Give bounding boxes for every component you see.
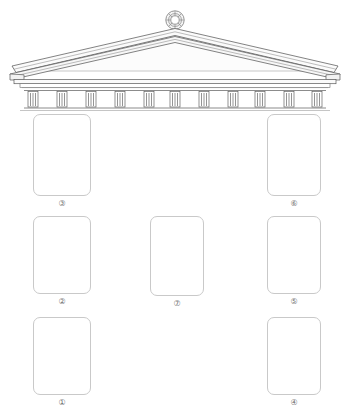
placeholder-card[interactable] (267, 317, 321, 395)
column (86, 92, 96, 108)
diagram-canvas: ③⑥②⑦⑤①④ (0, 0, 345, 413)
column (115, 92, 125, 108)
cornice-band (14, 80, 336, 84)
column (255, 92, 265, 108)
architrave-band (20, 84, 330, 88)
column (57, 92, 67, 108)
card-number-label: ① (42, 398, 82, 408)
card-number-label: ⑦ (157, 299, 197, 309)
card-number-label: ⑥ (274, 199, 314, 209)
placeholder-card[interactable] (150, 216, 204, 296)
column (284, 92, 294, 108)
column (144, 92, 154, 108)
temple-pediment-graphic (0, 0, 345, 115)
placeholder-card[interactable] (267, 114, 321, 196)
pediment-group (10, 11, 340, 111)
eave-return-right (326, 74, 340, 80)
column (170, 92, 180, 108)
placeholder-card[interactable] (33, 216, 91, 294)
placeholder-card[interactable] (33, 317, 91, 395)
column (312, 92, 322, 108)
colonnade-columns (28, 92, 322, 108)
card-number-label: ③ (42, 199, 82, 209)
card-number-label: ⑤ (274, 297, 314, 307)
column (199, 92, 209, 108)
card-number-label: ④ (274, 398, 314, 408)
card-number-label: ② (42, 297, 82, 307)
column (228, 92, 238, 108)
column (28, 92, 38, 108)
placeholder-card[interactable] (33, 114, 91, 196)
placeholder-card[interactable] (267, 216, 321, 294)
rosette-finial-icon (166, 11, 184, 29)
eave-return-left (10, 74, 24, 80)
